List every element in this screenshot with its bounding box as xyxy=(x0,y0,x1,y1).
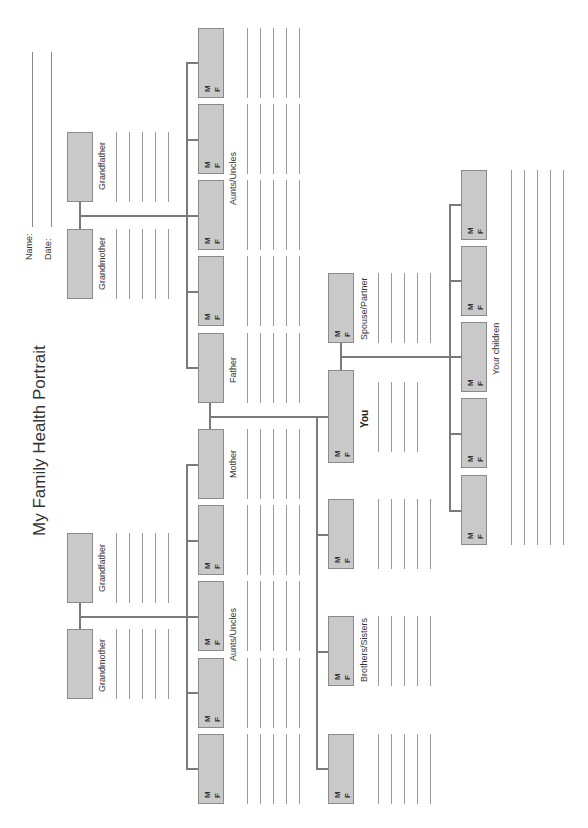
paternal-aunt-uncle-box-2[interactable]: MF xyxy=(198,104,224,174)
history-line xyxy=(142,229,143,299)
male-marker[interactable]: M xyxy=(203,85,212,92)
connector xyxy=(186,139,198,141)
female-marker[interactable]: F xyxy=(476,381,485,386)
male-marker[interactable]: M xyxy=(203,791,212,798)
date-field[interactable] xyxy=(51,52,52,227)
maternal-aunt-uncle-box-4[interactable]: MF xyxy=(198,734,224,804)
female-marker[interactable]: F xyxy=(343,452,352,457)
you-box[interactable]: MF xyxy=(328,370,354,463)
female-marker[interactable]: F xyxy=(476,457,485,462)
connector xyxy=(316,534,328,536)
history-line xyxy=(116,132,117,202)
maternal-aunts-uncles-label: Aunts/Uncles xyxy=(228,608,238,661)
mother-box[interactable] xyxy=(198,429,224,499)
paternal-aunt-uncle-box-3[interactable]: MF xyxy=(198,180,224,250)
male-marker[interactable]: M xyxy=(203,237,212,244)
male-marker[interactable]: M xyxy=(203,638,212,645)
sibling-box-2[interactable]: MF xyxy=(328,616,354,686)
male-marker[interactable]: M xyxy=(203,562,212,569)
child-box-5[interactable]: MF xyxy=(461,475,487,545)
female-marker[interactable]: F xyxy=(213,315,222,320)
male-marker[interactable]: M xyxy=(466,227,475,234)
father-box[interactable] xyxy=(198,333,224,403)
female-marker[interactable]: F xyxy=(476,534,485,539)
maternal-grandmother-box[interactable] xyxy=(67,629,93,699)
connector xyxy=(186,291,198,293)
female-marker[interactable]: F xyxy=(213,239,222,244)
spouse-box[interactable]: MF xyxy=(328,273,354,343)
history-line xyxy=(155,629,156,699)
male-marker[interactable]: M xyxy=(203,313,212,320)
connector xyxy=(449,204,451,511)
male-marker[interactable]: M xyxy=(333,791,342,798)
connector xyxy=(316,416,318,769)
female-marker[interactable]: F xyxy=(476,305,485,310)
sibling-box-3[interactable]: MF xyxy=(328,734,354,804)
connector xyxy=(316,651,328,653)
male-marker[interactable]: M xyxy=(333,330,342,337)
female-marker[interactable]: F xyxy=(343,793,352,798)
connector xyxy=(186,768,198,770)
female-marker[interactable]: F xyxy=(213,87,222,92)
child-box-4[interactable]: MF xyxy=(461,398,487,468)
maternal-aunt-uncle-box-2[interactable]: MF xyxy=(198,581,224,651)
male-marker[interactable]: M xyxy=(333,450,342,457)
paternal-aunt-uncle-box-4[interactable]: MF xyxy=(198,256,224,326)
male-marker[interactable]: M xyxy=(466,455,475,462)
maternal-aunt-uncle-box-3[interactable]: MF xyxy=(198,658,224,728)
paternal-grandfather-box[interactable] xyxy=(67,132,93,202)
child-box-2[interactable]: MF xyxy=(461,246,487,316)
maternal-aunt-uncle-box-1[interactable]: MF xyxy=(198,505,224,575)
history-line xyxy=(129,132,130,202)
connector xyxy=(186,367,198,369)
connector xyxy=(449,204,461,206)
history-line xyxy=(168,229,169,299)
connector xyxy=(449,510,461,512)
female-marker[interactable]: F xyxy=(213,640,222,645)
history-line xyxy=(129,229,130,299)
male-marker[interactable]: M xyxy=(203,161,212,168)
paternal-grandmother-box[interactable] xyxy=(67,229,93,299)
mother-label: Mother xyxy=(228,450,238,478)
history-line xyxy=(155,533,156,603)
sibling-box-1[interactable]: MF xyxy=(328,499,354,569)
child-box-1[interactable]: MF xyxy=(461,170,487,240)
male-marker[interactable]: M xyxy=(466,532,475,539)
female-marker[interactable]: F xyxy=(213,564,222,569)
history-line xyxy=(116,629,117,699)
female-marker[interactable]: F xyxy=(343,558,352,563)
female-marker[interactable]: F xyxy=(476,229,485,234)
you-label: You xyxy=(359,410,370,428)
siblings-label: Brothers/Sisters xyxy=(359,618,369,682)
female-marker[interactable]: F xyxy=(213,717,222,722)
child-box-3[interactable]: MF xyxy=(461,322,487,392)
female-marker[interactable]: F xyxy=(213,793,222,798)
male-marker[interactable]: M xyxy=(333,556,342,563)
male-marker[interactable]: M xyxy=(333,673,342,680)
female-marker[interactable]: F xyxy=(213,163,222,168)
connector xyxy=(80,215,198,217)
connector xyxy=(449,280,461,282)
father-label: Father xyxy=(228,357,238,383)
history-line xyxy=(168,629,169,699)
spouse-label: Spouse/Partner xyxy=(359,277,369,340)
paternal-aunts-uncles-label: Aunts/Uncles xyxy=(228,152,238,205)
history-line xyxy=(155,229,156,299)
connector xyxy=(186,464,198,466)
male-marker[interactable]: M xyxy=(203,715,212,722)
maternal-grandfather-box[interactable] xyxy=(67,533,93,603)
connector xyxy=(186,464,188,770)
connector xyxy=(186,62,188,368)
connector xyxy=(186,540,198,542)
male-marker[interactable]: M xyxy=(466,379,475,386)
female-marker[interactable]: F xyxy=(343,675,352,680)
history-line xyxy=(168,132,169,202)
maternal-grandfather-label: Grandfather xyxy=(97,544,107,592)
history-line xyxy=(116,229,117,299)
paternal-aunt-uncle-box-1[interactable]: MF xyxy=(198,28,224,98)
connector xyxy=(186,62,198,64)
date-label: Date: xyxy=(43,238,53,260)
male-marker[interactable]: M xyxy=(466,303,475,310)
name-field[interactable] xyxy=(32,52,33,227)
female-marker[interactable]: F xyxy=(343,332,352,337)
